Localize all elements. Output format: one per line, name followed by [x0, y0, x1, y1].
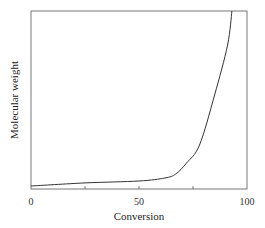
x-tick-0: 0 [29, 196, 34, 207]
x-axis-ticks [85, 186, 193, 189]
molecular-weight-line [31, 11, 232, 186]
x-axis-label: Conversion [114, 210, 165, 222]
data-curve [31, 11, 232, 186]
x-tick-100: 100 [240, 196, 255, 207]
chart: 0 50 100 Conversion Molecular weight [0, 0, 265, 228]
y-axis-label: Molecular weight [8, 61, 20, 139]
plot-frame [31, 11, 247, 189]
x-tick-50: 50 [134, 196, 144, 207]
